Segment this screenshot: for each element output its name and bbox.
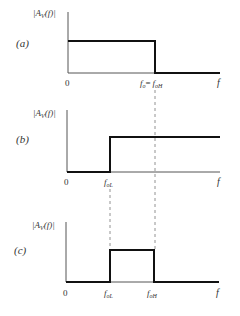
panel-b-x-label: f	[217, 176, 221, 187]
panel-a-cutoff-label: fo=foH	[140, 78, 163, 89]
panel-a-response-curve	[68, 41, 220, 73]
panel-c-ylabel: |AV(f)|	[32, 220, 55, 231]
panel-c-cutoff-low-label: foL	[104, 288, 114, 299]
panel-a-origin: 0	[65, 78, 70, 88]
panel-a-x-label: f	[217, 77, 221, 88]
panel-b-response-curve	[67, 137, 220, 172]
panel-a-lowpass: (a) |AV(f)| 0 fo=foH f	[16, 8, 221, 89]
panel-c-bandpass: (c) |AV(f)| 0 foL foH f	[14, 220, 220, 299]
panel-b-cutoff-label: foL	[104, 177, 114, 188]
panel-c-response-curve	[66, 250, 219, 282]
panel-b-highpass: (b) |AV(f)| 0 foL f	[16, 108, 221, 188]
panel-c-cutoff-high-label: foH	[147, 288, 158, 299]
panel-a-ylabel: |AV(f)|	[33, 8, 56, 19]
panel-c-origin: 0	[63, 288, 68, 298]
panel-c-x-label: f	[216, 287, 220, 298]
panel-b-origin: 0	[64, 177, 69, 187]
panel-b-tag: (b)	[16, 133, 29, 146]
panel-a-tag: (a)	[16, 37, 29, 50]
panel-b-ylabel: |AV(f)|	[33, 108, 56, 119]
panel-c-tag: (c)	[14, 244, 27, 257]
filter-responses-diagram: (a) |AV(f)| 0 fo=foH f (b) |AV(f)| 0 foL…	[0, 0, 240, 316]
